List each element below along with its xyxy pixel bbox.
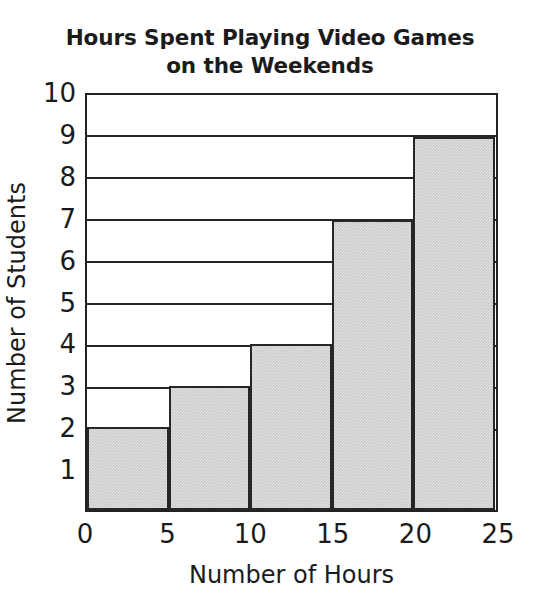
y-tick-5: 5: [14, 290, 76, 316]
y-tick-3: 3: [14, 373, 76, 399]
y-tick-10: 10: [14, 80, 76, 106]
bar-10-15: [250, 344, 332, 510]
y-tick-8: 8: [14, 164, 76, 190]
bar-15-20: [332, 220, 414, 510]
histogram-chart: Hours Spent Playing Video Games on the W…: [0, 0, 540, 613]
x-tick-15: 15: [298, 521, 368, 547]
chart-title: Hours Spent Playing Video Games on the W…: [30, 24, 510, 79]
bar-20-25: [413, 137, 495, 510]
x-tick-20: 20: [380, 521, 450, 547]
x-tick-5: 5: [133, 521, 203, 547]
y-tick-2: 2: [14, 415, 76, 441]
y-tick-6: 6: [14, 248, 76, 274]
plot-area: [85, 93, 498, 512]
bars-layer: [87, 95, 496, 510]
y-axis-tick-labels: 10 9 8 7 6 5 4 3 2 1: [0, 93, 76, 512]
x-tick-25: 25: [463, 521, 533, 547]
y-tick-1: 1: [14, 457, 76, 483]
x-tick-10: 10: [215, 521, 285, 547]
chart-title-line-2: on the Weekends: [30, 52, 510, 80]
y-tick-9: 9: [14, 122, 76, 148]
chart-title-line-1: Hours Spent Playing Video Games: [30, 24, 510, 52]
x-tick-0: 0: [50, 521, 120, 547]
bar-0-5: [87, 427, 169, 510]
y-tick-4: 4: [14, 331, 76, 357]
x-axis-tick-labels: 0 5 10 15 20 25: [0, 521, 540, 555]
y-tick-7: 7: [14, 206, 76, 232]
bar-5-10: [169, 386, 251, 510]
x-axis-title: Number of Hours: [85, 563, 498, 587]
